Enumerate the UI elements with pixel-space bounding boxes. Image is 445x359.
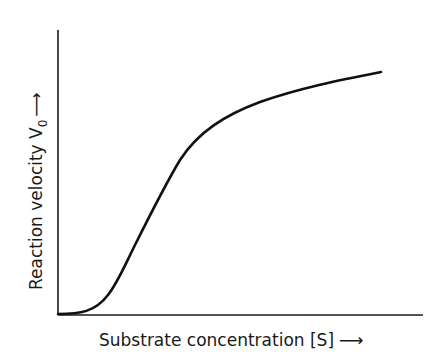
x-axis-label: Substrate concentration [S]⟶ — [99, 330, 363, 350]
y-axis-label: Reaction velocity V0⟶ — [26, 92, 50, 290]
data-curve — [58, 72, 381, 314]
chart: Reaction velocity V0⟶ Substrate concentr… — [0, 0, 445, 359]
